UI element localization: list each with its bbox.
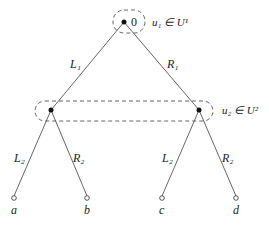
info-set-2-label: u₂ ∈ U²	[222, 104, 259, 116]
info-set-2-boundary	[35, 101, 213, 121]
decision-node-left	[49, 108, 54, 113]
game-tree-diagram: 0 u₁ ∈ U¹ L₁ R₁ u₂ ∈ U² L₂ R₂ L₂ R₂ a b …	[0, 0, 269, 227]
leaf-node-c	[160, 196, 165, 201]
leaf-node-a	[12, 196, 17, 201]
edge-label-L1: L₁	[69, 57, 81, 71]
leaf-label-a: a	[11, 203, 17, 217]
leaf-node-d	[234, 196, 239, 201]
leaf-label-b: b	[84, 203, 90, 217]
leaf-label-d: d	[233, 203, 240, 217]
edge-label-L2-right: L₂	[161, 151, 173, 165]
edge-label-R1: R₁	[166, 57, 179, 71]
decision-node-right	[197, 108, 202, 113]
edge-L1	[51, 22, 124, 110]
leaf-node-b	[85, 196, 90, 201]
edge-R1	[124, 22, 199, 110]
root-label: 0	[131, 15, 137, 29]
edge-label-R2-left: R₂	[72, 151, 85, 165]
edge-label-R2-right: R₂	[221, 151, 234, 165]
leaf-label-c: c	[159, 203, 165, 217]
edge-label-L2-left: L₂	[13, 151, 25, 165]
info-set-1-label: u₁ ∈ U¹	[152, 16, 188, 28]
root-node	[122, 20, 127, 25]
